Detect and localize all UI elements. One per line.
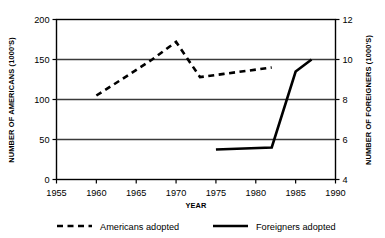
chart-container: 050100150200 4681012 1955196019651970197… <box>0 0 385 238</box>
x-tick-label: 1980 <box>246 188 266 198</box>
x-tick-label: 1985 <box>285 188 305 198</box>
left-tick-label: 100 <box>34 95 49 105</box>
right-tick-label: 8 <box>343 95 348 105</box>
left-tick-label: 200 <box>34 15 49 25</box>
right-tick-label: 10 <box>343 55 353 65</box>
right-tick-label: 6 <box>343 135 348 145</box>
y2-axis-title: NUMBER OF FOREIGNERS (1000'S) <box>364 35 373 166</box>
adoption-line-chart: 050100150200 4681012 1955196019651970197… <box>0 0 385 238</box>
left-tick-label: 150 <box>34 55 49 65</box>
x-tick-label: 1960 <box>86 188 106 198</box>
x-tick-label: 1990 <box>325 188 345 198</box>
x-tick-label: 1955 <box>46 188 66 198</box>
right-tick-label: 4 <box>343 175 348 185</box>
legend-label-americans-adopted: Americans adopted <box>100 222 179 232</box>
legend-label-foreigners-adopted: Foreigners adopted <box>256 222 336 232</box>
left-tick-label: 0 <box>44 175 49 185</box>
x-tick-label: 1965 <box>126 188 146 198</box>
x-tick-label: 1975 <box>206 188 226 198</box>
right-tick-label: 12 <box>343 15 353 25</box>
x-tick-label: 1970 <box>166 188 186 198</box>
x-axis-title: YEAR <box>185 201 207 210</box>
left-tick-label: 50 <box>39 135 49 145</box>
y-axis-title: NUMBER OF AMERICANS (1000'S) <box>7 37 16 163</box>
